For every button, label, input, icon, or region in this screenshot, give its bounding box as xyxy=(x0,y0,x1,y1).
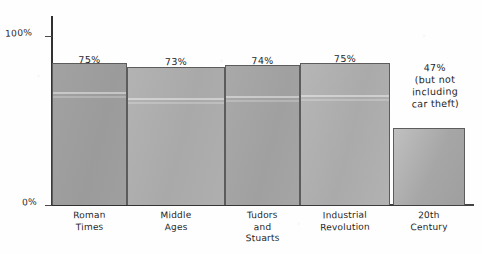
bar-sheen xyxy=(53,92,126,94)
y-axis-label-top: 100% xyxy=(5,27,33,38)
y-axis-label-bottom: 0% xyxy=(22,197,38,208)
category-label-industrial-revolution: Industrial Revolution xyxy=(298,209,392,234)
category-label-line2: Times xyxy=(76,221,104,231)
value-label-20th-century: 47% (but not including car theft) xyxy=(393,61,478,110)
bar-sheen xyxy=(226,96,299,98)
category-label-line3: Stuarts xyxy=(246,233,280,244)
bar-sheen-secondary xyxy=(301,99,389,101)
y-tick-0 xyxy=(45,205,52,206)
bar-chart: 100% 0% 75% 73% 74% 75% 47% (but not inc… xyxy=(0,0,482,254)
value-label-20th-century-note-1: (but not xyxy=(415,74,456,86)
category-label-line1: Middle xyxy=(160,210,191,221)
bar-sheen-secondary xyxy=(128,102,224,104)
category-label-line1: 20th xyxy=(418,210,440,220)
category-label-line2: Century xyxy=(410,221,447,232)
category-label-line2: and xyxy=(254,221,272,231)
value-label-20th-century-note-2: including xyxy=(412,86,458,98)
bar-sheen xyxy=(128,98,224,100)
plot-area xyxy=(52,16,474,205)
category-label-line2: Revolution xyxy=(320,221,370,232)
bar-20th-century xyxy=(393,128,465,205)
bar-industrial-revolution xyxy=(300,63,390,205)
bar-sheen xyxy=(301,95,389,97)
category-label-middle-ages: Middle Ages xyxy=(127,209,225,234)
bar-tudors-and-stuarts xyxy=(225,65,300,205)
bar-sheen-secondary xyxy=(226,100,299,102)
value-label-roman-times: 75% xyxy=(52,53,127,66)
category-label-line1: Tudors xyxy=(247,210,278,221)
category-label-line1: Roman xyxy=(73,210,106,221)
category-label-line2: Ages xyxy=(165,221,188,231)
bar-roman-times xyxy=(52,63,127,205)
category-label-roman-times: Roman Times xyxy=(52,209,127,233)
category-label-line1: Industrial xyxy=(323,210,367,221)
value-label-tudors-and-stuarts: 74% xyxy=(225,54,300,67)
value-label-20th-century-note-3: car theft) xyxy=(412,98,459,110)
y-tick-100 xyxy=(45,36,52,37)
category-label-tudors-and-stuarts: Tudors and Stuarts xyxy=(225,209,301,245)
bar-middle-ages xyxy=(127,67,225,205)
bar-sheen-secondary xyxy=(53,96,126,98)
value-label-industrial-revolution: 75% xyxy=(300,52,390,65)
value-label-20th-century-percent: 47% xyxy=(424,62,446,73)
category-label-20th-century: 20th Century xyxy=(393,209,465,233)
